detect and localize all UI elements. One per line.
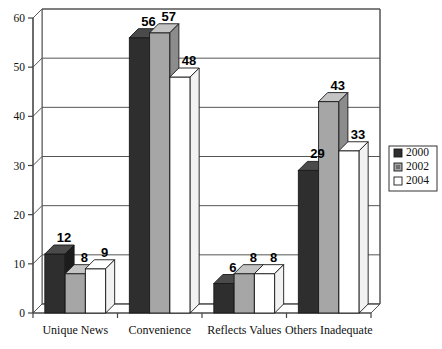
legend-swatch-2004 xyxy=(394,177,402,185)
bar-front-face xyxy=(214,284,234,314)
bar-front-face xyxy=(129,38,149,313)
data-label: 8 xyxy=(81,250,88,265)
legend-label-2000: 2000 xyxy=(406,146,429,158)
x-axis: Unique NewsConvenienceReflects ValuesOth… xyxy=(33,313,373,337)
y-tick-label: 40 xyxy=(14,110,26,122)
y-tick-label: 60 xyxy=(14,12,26,24)
data-label: 56 xyxy=(141,14,155,29)
bar-2004-unique-news xyxy=(85,260,114,313)
data-label: 33 xyxy=(351,127,365,142)
legend-label-2002: 2002 xyxy=(406,160,429,172)
x-category-label: Convenience xyxy=(128,323,191,337)
data-label: 8 xyxy=(250,250,257,265)
bar-2004-reflects-values xyxy=(254,265,283,313)
legend-swatch-inner xyxy=(396,165,400,169)
x-category-label: Others Inadequate xyxy=(285,323,373,337)
chart-container: 0102030405060 Unique NewsConvenienceRefl… xyxy=(0,0,442,349)
bar-chart-3d: 0102030405060 Unique NewsConvenienceRefl… xyxy=(0,0,442,349)
y-tick-label: 20 xyxy=(14,209,26,221)
bar-front-face xyxy=(170,77,190,313)
x-category-label: Reflects Values xyxy=(207,323,281,337)
data-label: 6 xyxy=(229,260,236,275)
bar-side-face xyxy=(190,68,199,313)
y-tick-label: 30 xyxy=(14,160,26,172)
data-label: 12 xyxy=(57,230,71,245)
data-label: 43 xyxy=(331,78,345,93)
bar-front-face xyxy=(234,274,254,313)
legend-label-2004: 2004 xyxy=(406,174,429,186)
y-axis: 0102030405060 xyxy=(14,12,34,319)
data-label: 9 xyxy=(101,245,108,260)
bar-front-face xyxy=(254,274,274,313)
bar-side-face xyxy=(359,142,368,313)
bar-front-face xyxy=(298,170,318,313)
legend-swatch-2000 xyxy=(394,149,402,157)
bar-front-face xyxy=(150,33,170,313)
bar-side-face xyxy=(106,260,115,313)
bar-front-face xyxy=(65,274,85,313)
chart-legend: 200020022004 xyxy=(389,146,437,191)
bar-front-face xyxy=(85,269,105,313)
y-tick-label: 0 xyxy=(19,307,25,319)
y-tick-label: 50 xyxy=(14,61,26,73)
data-label: 57 xyxy=(162,9,176,24)
bar-2004-others-inadequate xyxy=(339,142,368,313)
x-category-label: Unique News xyxy=(42,323,108,337)
bar-side-face xyxy=(275,265,284,313)
bar-front-face xyxy=(319,102,339,313)
bar-front-face xyxy=(339,151,359,313)
y-tick-label: 10 xyxy=(14,258,26,270)
data-label: 8 xyxy=(270,250,277,265)
data-label: 29 xyxy=(310,146,324,161)
bar-2004-convenience xyxy=(170,68,199,313)
data-label: 48 xyxy=(182,53,196,68)
bar-front-face xyxy=(45,254,65,313)
